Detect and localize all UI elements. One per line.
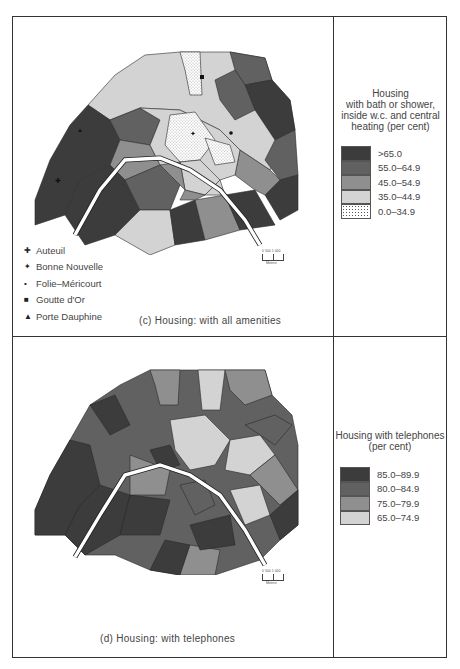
scale-bar-c: 0 500 1 000 Metres (262, 249, 294, 273)
paris-choropleth-amenities: ▲ ✚ ✦ (30, 50, 305, 255)
cross-icon: ✚ (24, 246, 36, 255)
place-label: Auteuil (36, 245, 65, 256)
paris-choropleth-telephones (30, 365, 305, 575)
legend-amenities: >65.0 55.0–64.9 45.0–54.9 35.0–44.9 0.0–… (341, 146, 420, 219)
place-label: Bonne Nouvelle (36, 261, 103, 272)
legend-item: 65.0–74.9 (340, 511, 419, 526)
legend-item: 85.0–89.9 (340, 467, 419, 482)
legend-swatch (341, 161, 371, 176)
legend-swatch (341, 190, 371, 205)
place-item-auteuil: ✚Auteuil (24, 242, 103, 259)
legend-swatch (341, 175, 371, 190)
legend-title-line: (per cent) (334, 441, 446, 452)
legend-swatch (340, 511, 370, 526)
place-label: Folie–Méricourt (36, 278, 101, 289)
place-item-porte-dauphine: ▲Porte Dauphine (24, 308, 103, 325)
square-icon: ■ (24, 295, 36, 304)
legend-item: 45.0–54.9 (341, 175, 420, 190)
star-icon: ✦ (24, 262, 36, 271)
legend-item: 55.0–64.9 (341, 161, 420, 176)
legend-label: 65.0–74.9 (377, 512, 419, 523)
place-key: ✚Auteuil ✦Bonne Nouvelle •Folie–Méricour… (24, 242, 103, 325)
triangle-icon: ▲ (24, 312, 36, 321)
place-label: Goutte d'Or (36, 294, 85, 305)
legend-label: 55.0–64.9 (378, 162, 420, 173)
legend-label: 0.0–34.9 (378, 206, 415, 217)
legend-item: 35.0–44.9 (341, 190, 420, 205)
marker-folie-mericourt (229, 131, 233, 135)
legend-item: >65.0 (341, 146, 420, 161)
legend-label: 75.0–79.9 (377, 498, 419, 509)
legend-item: 75.0–79.9 (340, 496, 419, 511)
legend-title-line: inside w.c. and central (338, 110, 443, 121)
legend-item: 80.0–84.9 (340, 482, 419, 497)
legend-title-telephones: Housing with telephones (per cent) (334, 430, 446, 452)
legend-label: 35.0–44.9 (378, 191, 420, 202)
caption-panel-d: (d) Housing: with telephones (100, 633, 235, 644)
legend-swatch (341, 146, 371, 161)
legend-label: 80.0–84.9 (377, 483, 419, 494)
scale-ticks: 0 500 1 000 (262, 249, 294, 253)
legend-telephones: 85.0–89.9 80.0–84.9 75.0–79.9 65.0–74.9 (340, 467, 419, 525)
legend-title-line: with bath or shower, (338, 99, 443, 110)
marker-auteuil: ✚ (55, 177, 61, 184)
legend-item: 0.0–34.9 (341, 204, 420, 219)
legend-title-line: Housing (338, 88, 443, 99)
place-item-goutte-dor: ■Goutte d'Or (24, 292, 103, 309)
legend-label: >65.0 (378, 148, 402, 159)
scale-bar-d: 0 500 1 000 Metres (262, 569, 294, 593)
marker-porte-dauphine: ▲ (77, 127, 83, 133)
place-item-folie-mericourt: •Folie–Méricourt (24, 275, 103, 292)
legend-swatch (341, 204, 371, 219)
legend-swatch (340, 467, 370, 482)
scale-ticks: 0 500 1 000 (262, 569, 294, 573)
legend-swatch (340, 482, 370, 497)
scale-bar-graphic (262, 254, 284, 261)
map-panel-c: ▲ ✚ ✦ (30, 50, 305, 255)
legend-label: 85.0–89.9 (377, 469, 419, 480)
scale-unit: Metres (266, 261, 294, 265)
panel-divider-vertical (333, 16, 334, 658)
scale-bar-graphic (262, 574, 284, 581)
legend-title-line: heating (per cent) (338, 121, 443, 132)
legend-title-amenities: Housing with bath or shower, inside w.c.… (338, 88, 443, 132)
map-panel-d (30, 365, 305, 575)
scale-unit: Metres (266, 581, 294, 585)
legend-label: 45.0–54.9 (378, 177, 420, 188)
panel-divider-horizontal (12, 336, 447, 337)
marker-goutte-dor (200, 75, 204, 79)
place-label: Porte Dauphine (36, 311, 102, 322)
dot-icon: • (24, 279, 36, 288)
legend-title-line: Housing with telephones (334, 430, 446, 441)
caption-panel-c: (c) Housing: with all amenities (139, 315, 281, 326)
marker-bonne-nouvelle: ✦ (190, 130, 196, 137)
place-item-bonne-nouvelle: ✦Bonne Nouvelle (24, 259, 103, 276)
legend-swatch (340, 496, 370, 511)
